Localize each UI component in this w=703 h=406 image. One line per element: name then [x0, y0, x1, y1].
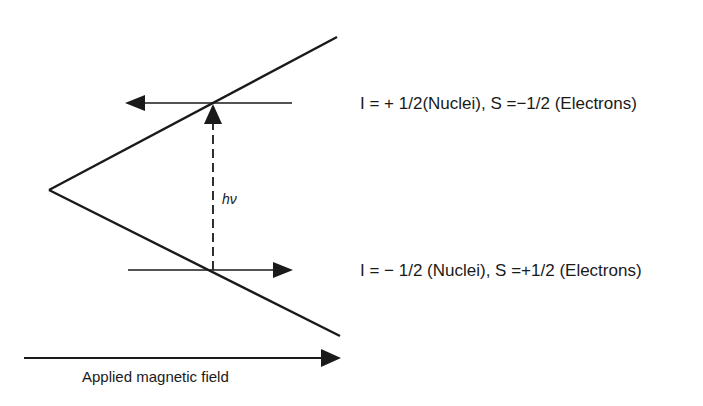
upper-level-left-arrow: [125, 95, 292, 111]
transition-arrow: [204, 104, 222, 270]
transition-label: hν: [222, 191, 237, 207]
field-axis-arrow: [24, 349, 341, 367]
arrowhead-right-icon: [273, 262, 293, 278]
lower-level-label: I = − 1/2 (Nuclei), S =+1/2 (Electrons): [360, 261, 642, 280]
arrowhead-left-icon: [125, 95, 145, 111]
lower-energy-level-line: [49, 190, 340, 336]
upper-energy-level-line: [49, 37, 337, 190]
energy-level-diagram: hν I = + 1/2(Nuclei), S =−1/2 (Electrons…: [0, 0, 703, 406]
upper-level-label: I = + 1/2(Nuclei), S =−1/2 (Electrons): [360, 94, 637, 113]
arrowhead-right-icon: [321, 349, 341, 367]
field-axis-label: Applied magnetic field: [82, 368, 229, 385]
lower-level-right-arrow: [128, 262, 293, 278]
